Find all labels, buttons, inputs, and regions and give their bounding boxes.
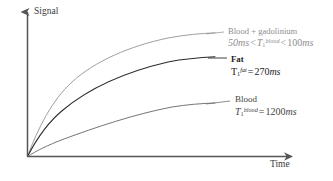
t1-relaxation-figure: Signal Time Blood + gadolinium 50ms<T1bl… xyxy=(0,0,333,181)
fat-superscript-fat: fat xyxy=(240,66,247,73)
gd-lower-unit: ms xyxy=(238,37,249,48)
curve-fat xyxy=(28,57,216,157)
gd-upper-unit: ms xyxy=(302,37,313,48)
annotation-blood-gadolinium: Blood + gadolinium 50ms<T1blood<100ms xyxy=(228,27,313,49)
annotation-blood: Blood T1blood=1200ms xyxy=(235,95,297,117)
fat-value: 270 xyxy=(254,66,269,77)
x-axis-label: Time xyxy=(270,160,290,170)
blood-value: 1200 xyxy=(265,106,285,117)
curve-blood xyxy=(28,103,216,157)
blood-superscript-blood: blood xyxy=(244,106,258,113)
annotation-fat-title: Fat xyxy=(231,55,281,65)
annotation-blood-gadolinium-formula: 50ms<T1blood<100ms xyxy=(228,37,313,49)
annotation-fat: Fat T1fat=270ms xyxy=(231,55,281,77)
annotation-fat-formula: T1fat=270ms xyxy=(231,66,281,78)
curve-blood-gadolinium xyxy=(28,33,216,157)
fat-unit: ms xyxy=(269,66,280,77)
gd-superscript-blood: blood xyxy=(265,38,279,45)
annotation-blood-title: Blood xyxy=(235,95,297,105)
annotation-blood-formula: T1blood=1200ms xyxy=(235,106,297,118)
gd-lower-value: 50 xyxy=(228,37,238,48)
annotation-blood-gadolinium-title: Blood + gadolinium xyxy=(228,27,313,36)
gd-relation-1: < xyxy=(249,37,257,48)
leader-line-blood xyxy=(206,101,230,104)
gd-upper-value: 100 xyxy=(287,37,302,48)
y-axis-label: Signal xyxy=(34,7,58,17)
blood-unit: ms xyxy=(285,106,296,117)
